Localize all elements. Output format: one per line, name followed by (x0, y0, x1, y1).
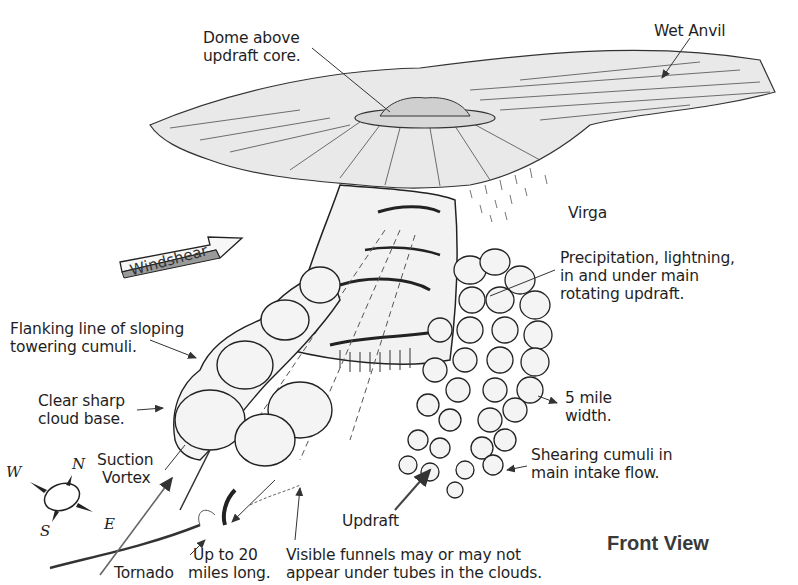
up-to-20-pointer (232, 480, 275, 522)
supercell-diagram: Dome above updraft core. Wet Anvil Virga… (0, 0, 798, 585)
compass-north: N (72, 455, 85, 473)
visible-funnels-pointer (295, 488, 300, 540)
dome-label: Dome above updraft core. (203, 29, 300, 65)
flanking-line-label: Flanking line of sloping towering cumuli… (10, 320, 184, 356)
flanking-line-cumuli (174, 267, 340, 466)
compass-east: E (104, 515, 115, 533)
five-mile-pointer (538, 396, 557, 403)
cloud-base-label: Clear sharp cloud base. (38, 392, 125, 428)
updraft-arrow (395, 470, 430, 510)
shearing-cumuli-label: Shearing cumuli in main intake flow. (531, 446, 672, 482)
suction-vortex-label: Suction Vortex (97, 451, 153, 487)
up-to-20-miles-label: Up to 20 miles long. (188, 546, 270, 582)
updraft-label: Updraft (342, 512, 399, 530)
cloud-base-pointer (137, 408, 163, 410)
wet-anvil-label: Wet Anvil (654, 22, 725, 40)
suction-vortex-pointer (165, 445, 185, 470)
precipitation-label: Precipitation, lightning, in and under m… (560, 249, 735, 303)
front-view-title: Front View (607, 532, 709, 555)
compass-south: S (40, 522, 50, 540)
visible-funnels-label: Visible funnels may or may not appear un… (286, 546, 542, 582)
shearing-cumuli-pointer (507, 466, 527, 470)
tornado-label: Tornado (114, 564, 174, 582)
compass-rose (30, 475, 93, 522)
virga-label: Virga (568, 204, 607, 222)
five-mile-width-label: 5 mile width. (565, 389, 612, 425)
compass-west: W (6, 463, 21, 481)
wet-anvil-shape (150, 50, 775, 188)
